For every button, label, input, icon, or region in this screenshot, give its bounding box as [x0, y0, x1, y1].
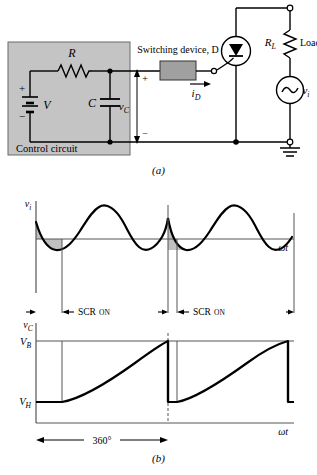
id-label-sub: D — [194, 93, 201, 102]
scr-triangle — [229, 44, 243, 56]
scr-on-small-1: ON — [99, 308, 110, 317]
delay-arrowhead-1 — [30, 310, 36, 315]
top-terminal-node — [287, 5, 293, 11]
vc-label-sub: C — [124, 106, 130, 115]
switching-device-box — [160, 61, 196, 80]
period-label: 360° — [93, 435, 112, 446]
vc-axis-label: vC — [23, 319, 33, 333]
vb-tick-sub: B — [26, 341, 31, 350]
load-text-label: Load — [300, 37, 317, 48]
figure-caption-b: (b) — [0, 452, 317, 464]
id-current-label: iD — [192, 87, 201, 102]
ground-terminal-node — [287, 139, 293, 145]
load-resistor-label: RL — [264, 36, 277, 51]
load-resistor-symbol — [284, 30, 296, 58]
resistor-r-label: R — [67, 46, 76, 60]
capacitor-c-label: C — [88, 96, 97, 110]
scr-on-small-2: ON — [214, 308, 225, 317]
vi-axis-label-sub: i — [29, 203, 31, 212]
ground-icon — [280, 145, 300, 156]
figure-caption-a: (a) — [0, 164, 317, 176]
vh-tick-label: VH — [19, 396, 31, 410]
vb-tick-label: VB — [20, 336, 31, 350]
load-resistor-sub: L — [271, 42, 277, 51]
scr-gate-internal-lead — [229, 58, 234, 62]
id-current-arrowhead — [204, 81, 211, 87]
vi-axis-label: vi — [25, 198, 32, 212]
circuit-diagram: R + − V C Control circuit + − vC — [0, 0, 317, 165]
ac-source-sine-glyph — [282, 87, 298, 92]
vh-tick-sub: H — [25, 401, 32, 410]
battery-minus-sign: − — [19, 110, 25, 122]
vc-minus-sign: − — [142, 128, 148, 139]
gate-terminal-node — [211, 68, 216, 73]
vc-axis-label-sub: C — [28, 324, 34, 333]
period-arrowhead-right — [160, 437, 168, 443]
delay-arrowhead-3 — [288, 310, 294, 315]
vc-arrow-head-up — [134, 69, 140, 77]
delay-arrowhead-2 — [162, 310, 168, 315]
scr-on-arrowhead-1 — [62, 310, 69, 315]
vc-arrow-head-down — [134, 136, 140, 144]
control-circuit-label: Control circuit — [16, 143, 78, 154]
switching-device-label: Switching device, D — [137, 44, 218, 55]
period-arrowhead-left — [36, 437, 44, 443]
scr-on-arrowhead-2 — [177, 310, 184, 315]
figure-root: R + − V C Control circuit + − vC — [0, 0, 317, 475]
source-voltage-label: vi — [302, 84, 309, 99]
scr-on-label-1: SCRON — [78, 307, 110, 317]
vc-plus-sign: + — [142, 73, 148, 84]
omega-t-label-bottom: ωt — [278, 426, 288, 437]
vi-sine-curve — [36, 205, 292, 250]
scr-on-label-2: SCRON — [193, 307, 225, 317]
vc-sawtooth-curve — [36, 341, 294, 402]
shaded-region-2b — [168, 218, 183, 250]
battery-plus-sign: + — [19, 82, 25, 94]
waveform-diagram: vi ωt SCRON SCRON vC — [0, 193, 317, 458]
source-label-sub: i — [307, 90, 309, 99]
